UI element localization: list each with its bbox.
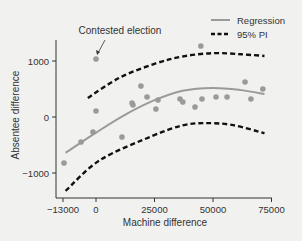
data-point: [192, 104, 198, 110]
y-ticks: 10000−1000: [22, 56, 56, 179]
data-point: [138, 83, 144, 89]
data-point: [198, 43, 204, 49]
data-point: [180, 99, 186, 105]
legend: Regression 95% PI: [211, 15, 285, 40]
pi-upper-curve: [88, 53, 265, 98]
data-point: [61, 160, 67, 166]
x-ticks: −130000250005000075000: [47, 198, 285, 215]
y-axis-title: Absentee difference: [10, 70, 21, 159]
data-point: [144, 94, 150, 100]
data-point: [130, 102, 136, 108]
data-point: [248, 96, 254, 102]
regression-curve: [66, 88, 265, 153]
data-point: [90, 129, 96, 135]
y-tick-label: −1000: [22, 168, 49, 179]
y-tick-label: 1000: [28, 56, 49, 67]
legend-regression-label: Regression: [237, 15, 285, 26]
scatter-chart: 10000−1000 −130000250005000075000 Contes…: [0, 0, 302, 241]
data-point: [242, 79, 248, 85]
data-point: [153, 106, 159, 112]
data-point: [155, 97, 161, 103]
x-tick-label: 75000: [258, 204, 284, 215]
data-point: [93, 56, 99, 62]
data-point: [213, 94, 219, 100]
annotation-arrow-line: [98, 40, 105, 53]
x-tick-label: 25000: [141, 204, 167, 215]
x-tick-label: 0: [93, 204, 98, 215]
data-point: [119, 134, 125, 140]
x-tick-label: 50000: [200, 204, 226, 215]
data-point: [199, 96, 205, 102]
data-point: [260, 86, 266, 92]
x-tick-label: −13000: [47, 204, 79, 215]
y-tick-label: 0: [44, 112, 49, 123]
legend-pi-label: 95% PI: [237, 29, 268, 40]
annotation-label: Contested election: [79, 25, 162, 36]
x-axis-title: Machine difference: [123, 217, 208, 228]
data-point: [78, 139, 84, 145]
data-point: [224, 94, 230, 100]
data-point: [93, 108, 99, 114]
